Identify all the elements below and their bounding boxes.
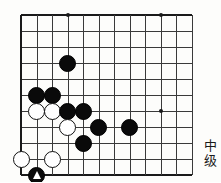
grid-line-horizontal-4 (21, 63, 192, 64)
black-stone-c6[interactable] (44, 87, 61, 104)
black-stone-h8[interactable] (121, 119, 138, 136)
grid-line-horizontal-3 (21, 47, 192, 48)
grid-line-horizontal-5 (21, 79, 192, 80)
star-point-3 (159, 109, 163, 113)
go-board[interactable] (0, 0, 200, 182)
grid-line-vertical-11 (176, 15, 177, 175)
grid-line-vertical-12 (192, 15, 193, 175)
black-stone-b11-marked[interactable] (28, 167, 45, 183)
black-stone-f8[interactable] (90, 119, 107, 136)
grid-line-vertical-10 (161, 15, 162, 175)
triangle-marker-icon (33, 171, 41, 179)
white-stone-c7[interactable] (44, 103, 61, 120)
grid-line-horizontal-9 (21, 143, 192, 144)
star-point-1 (66, 13, 70, 17)
grid-line-vertical-7 (114, 15, 115, 175)
white-stone-c10[interactable] (44, 151, 61, 168)
black-stone-b6[interactable] (28, 87, 45, 104)
black-stone-e7[interactable] (75, 103, 92, 120)
white-stone-b7[interactable] (28, 103, 45, 120)
difficulty-label: 中 级 (200, 138, 220, 168)
white-stone-d8[interactable] (59, 119, 76, 136)
difficulty-label-char-1: 中 (200, 138, 220, 153)
grid-line-horizontal-1 (21, 14, 192, 16)
grid-line-horizontal-2 (21, 31, 192, 32)
grid-line-vertical-6 (99, 15, 100, 175)
grid-line-horizontal-11 (21, 174, 192, 176)
grid-line-vertical-9 (145, 15, 146, 175)
grid-line-vertical-4 (68, 15, 69, 175)
grid-line-vertical-8 (130, 15, 131, 175)
black-stone-e9[interactable] (75, 135, 92, 152)
difficulty-label-char-2: 级 (200, 153, 220, 168)
black-stone-d4[interactable] (59, 55, 76, 72)
star-point-2 (159, 13, 163, 17)
black-stone-d7[interactable] (59, 103, 76, 120)
diagram-root: 中 级 (0, 0, 221, 182)
white-stone-a10[interactable] (13, 151, 30, 168)
